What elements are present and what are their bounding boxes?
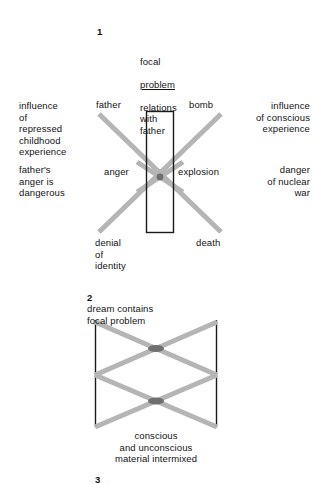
- crossing-node-upper-2: [148, 345, 164, 352]
- line-inner-upper-left: [137, 162, 183, 192]
- diagram2-graphics: [95, 320, 217, 427]
- label-right-lower: danger of nuclear war: [222, 164, 310, 199]
- diagram3-number: 3: [95, 474, 100, 484]
- figure-canvas: 1 focal problem relations with father in…: [0, 0, 314, 484]
- node-label-father: father: [96, 99, 121, 111]
- line-inner-upper-right: [137, 162, 183, 192]
- diagram2-number: 2: [87, 292, 92, 303]
- node-label-denial-of-identity: denial of identity: [95, 237, 155, 272]
- line-upper-x-up-2: [95, 322, 217, 375]
- focal-title-rest: relations with father: [140, 102, 177, 136]
- diagram2-caption-bottom: conscious and unconscious material inter…: [76, 430, 236, 465]
- focal-title-line1: focal: [140, 56, 161, 67]
- diagram1-number: 1: [97, 26, 102, 37]
- diagram2-caption-top: dream contains focal problem: [87, 303, 217, 326]
- node-label-anger: anger: [104, 166, 129, 178]
- line-lower-x-up-2: [95, 375, 217, 427]
- focal-problem-title: focal problem relations with father: [140, 44, 200, 136]
- label-left-lower: father's anger is dangerous: [19, 164, 99, 199]
- node-label-death: death: [196, 237, 220, 249]
- focal-title-underlined: problem: [140, 79, 175, 90]
- crossing-node-upper: [157, 174, 164, 181]
- label-left-upper: influence of repressed childhood experie…: [19, 100, 99, 158]
- line-upper-x-down-2: [95, 322, 217, 375]
- line-lower-x-down-2: [95, 375, 217, 427]
- node-label-explosion: explosion: [178, 166, 219, 178]
- crossing-node-lower-2: [148, 397, 164, 404]
- label-right-upper: influence of conscious experience: [222, 100, 310, 135]
- node-label-bomb: bomb: [189, 99, 213, 111]
